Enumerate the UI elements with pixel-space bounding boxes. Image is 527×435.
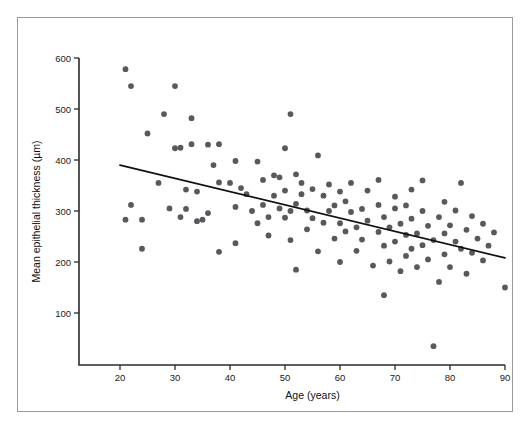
data-point — [288, 237, 294, 243]
data-point — [266, 214, 272, 220]
data-point — [216, 249, 222, 255]
data-point — [420, 208, 426, 214]
data-point — [205, 210, 211, 216]
axis-labels-layer: 1002003004005006002030405060708090Age (y… — [30, 53, 510, 402]
data-point — [354, 248, 360, 254]
data-point — [475, 236, 481, 242]
data-point — [359, 206, 365, 212]
data-point — [189, 141, 195, 147]
data-point — [194, 218, 200, 224]
data-point — [161, 111, 167, 117]
data-point — [337, 220, 343, 226]
data-point — [491, 230, 497, 236]
data-point — [392, 206, 398, 212]
data-point — [249, 208, 255, 214]
data-point — [288, 111, 294, 117]
data-point — [139, 246, 145, 252]
x-tick-label: 90 — [500, 372, 511, 383]
data-point — [271, 193, 277, 199]
data-point — [255, 220, 261, 226]
data-point — [288, 208, 294, 214]
data-point — [271, 172, 277, 178]
data-point — [200, 217, 206, 223]
trend-line-layer — [120, 165, 505, 258]
data-point — [403, 253, 409, 259]
data-point — [167, 206, 173, 212]
data-point — [420, 242, 426, 248]
y-tick-label: 600 — [55, 53, 71, 64]
data-point — [216, 180, 222, 186]
data-point — [337, 189, 343, 195]
data-point — [365, 188, 371, 194]
data-point — [458, 180, 464, 186]
data-point — [436, 214, 442, 220]
data-point — [464, 271, 470, 277]
data-point — [436, 279, 442, 285]
x-tick-label: 70 — [390, 372, 401, 383]
data-point — [502, 285, 508, 291]
data-point — [183, 187, 189, 193]
data-point — [238, 185, 244, 191]
data-point — [486, 243, 492, 249]
data-point — [392, 239, 398, 245]
data-point — [392, 194, 398, 200]
data-point — [172, 83, 178, 89]
data-point — [194, 189, 200, 195]
data-point — [332, 236, 338, 242]
data-point — [123, 66, 129, 72]
data-point — [343, 198, 349, 204]
data-point — [420, 178, 426, 184]
data-point — [315, 153, 321, 159]
data-point — [260, 177, 266, 183]
data-point — [398, 268, 404, 274]
data-points-layer — [123, 66, 508, 349]
y-axis-title: Mean epithelial thickness (µm) — [30, 140, 42, 282]
data-point — [409, 187, 415, 193]
data-point — [376, 177, 382, 183]
data-point — [348, 209, 354, 215]
data-point — [370, 263, 376, 269]
data-point — [359, 237, 365, 243]
data-point — [123, 217, 129, 223]
x-tick-label: 80 — [445, 372, 456, 383]
data-point — [348, 180, 354, 186]
data-point — [469, 213, 475, 219]
data-point — [343, 229, 349, 235]
x-tick-label: 30 — [170, 372, 181, 383]
data-point — [425, 257, 431, 263]
data-point — [381, 243, 387, 249]
data-point — [442, 231, 448, 237]
data-point — [299, 191, 305, 197]
data-point — [376, 229, 382, 235]
y-tick-label: 500 — [55, 104, 71, 115]
data-point — [233, 240, 239, 246]
data-point — [376, 202, 382, 208]
x-tick-label: 60 — [335, 372, 346, 383]
data-point — [431, 343, 437, 349]
data-point — [447, 222, 453, 228]
axes — [74, 58, 505, 370]
data-point — [480, 221, 486, 227]
data-point — [233, 158, 239, 164]
data-point — [387, 259, 393, 265]
data-point — [403, 202, 409, 208]
data-point — [172, 145, 178, 151]
x-axis-title: Age (years) — [285, 389, 339, 401]
data-point — [299, 180, 305, 186]
data-point — [255, 159, 261, 165]
data-point — [156, 180, 162, 186]
data-point — [227, 180, 233, 186]
y-tick-label: 400 — [55, 155, 71, 166]
data-point — [293, 201, 299, 207]
caption-sliver — [20, 424, 507, 433]
x-tick-label: 50 — [280, 372, 291, 383]
y-tick-label: 100 — [55, 308, 71, 319]
y-tick-label: 200 — [55, 257, 71, 268]
data-point — [453, 239, 459, 245]
data-point — [409, 246, 415, 252]
data-point — [310, 186, 316, 192]
data-point — [277, 174, 283, 180]
data-point — [321, 193, 327, 199]
data-point — [354, 224, 360, 230]
data-point — [183, 206, 189, 212]
